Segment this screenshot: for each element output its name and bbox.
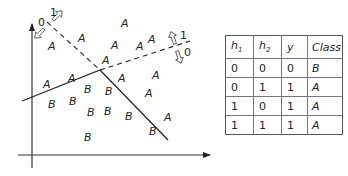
header-class: Class [308, 36, 343, 59]
cell-h1: 0 [226, 59, 254, 78]
class-a-point: A [163, 111, 172, 124]
class-b-point: B [104, 105, 112, 118]
h2-negative-label: 0 [184, 46, 191, 59]
table-header-row: h1 h2 y Class [226, 36, 343, 59]
table-row: 0 1 1 A [226, 78, 343, 97]
class-b-point: B [69, 95, 77, 108]
class-a-point: A [101, 54, 110, 67]
table-row: 1 0 1 A [226, 97, 343, 116]
class-b-points: BBBBBBBBB [48, 83, 157, 144]
class-a-point: A [110, 39, 119, 52]
cell-class: A [308, 97, 343, 116]
class-a-point: A [144, 87, 153, 100]
header-h1: h1 [226, 36, 254, 59]
cell-h2: 1 [254, 78, 282, 97]
class-b-point: B [84, 83, 92, 96]
table-row: 1 1 1 A [226, 116, 343, 135]
class-a-point: A [120, 17, 129, 30]
class-a-point: A [42, 78, 51, 91]
class-b-point: B [87, 106, 95, 119]
class-b-point: B [125, 110, 133, 123]
cell-y: 0 [282, 59, 308, 78]
cell-h1: 0 [226, 78, 254, 97]
cell-y: 1 [282, 116, 308, 135]
cell-y: 1 [282, 78, 308, 97]
h1-negative-label: 0 [38, 16, 45, 29]
header-h2: h2 [254, 36, 282, 59]
header-y: y [282, 36, 308, 59]
class-a-point: A [47, 40, 56, 53]
cell-h2: 0 [254, 97, 282, 116]
class-a-point: A [135, 40, 144, 53]
class-b-point: B [84, 131, 92, 144]
class-b-point: B [105, 85, 113, 98]
cell-h1: 1 [226, 116, 254, 135]
cell-class: B [308, 59, 343, 78]
cell-h2: 1 [254, 116, 282, 135]
class-a-point: A [77, 32, 86, 45]
h2-positive-label: 1 [180, 29, 187, 42]
cell-h1: 1 [226, 97, 254, 116]
cell-class: A [308, 116, 343, 135]
cell-class: A [308, 78, 343, 97]
class-a-point: A [117, 72, 126, 85]
class-a-point: A [67, 72, 76, 85]
class-b-point: B [48, 98, 56, 111]
table-row: 0 0 0 B [226, 59, 343, 78]
class-a-point: A [147, 33, 156, 46]
class-a-point: A [151, 69, 160, 82]
h1-positive-label: 1 [50, 6, 57, 19]
class-b-point: B [149, 125, 157, 138]
truth-table: h1 h2 y Class 0 0 0 B 0 1 1 A 1 0 1 A 1 … [225, 35, 343, 135]
cell-y: 1 [282, 97, 308, 116]
cell-h2: 0 [254, 59, 282, 78]
